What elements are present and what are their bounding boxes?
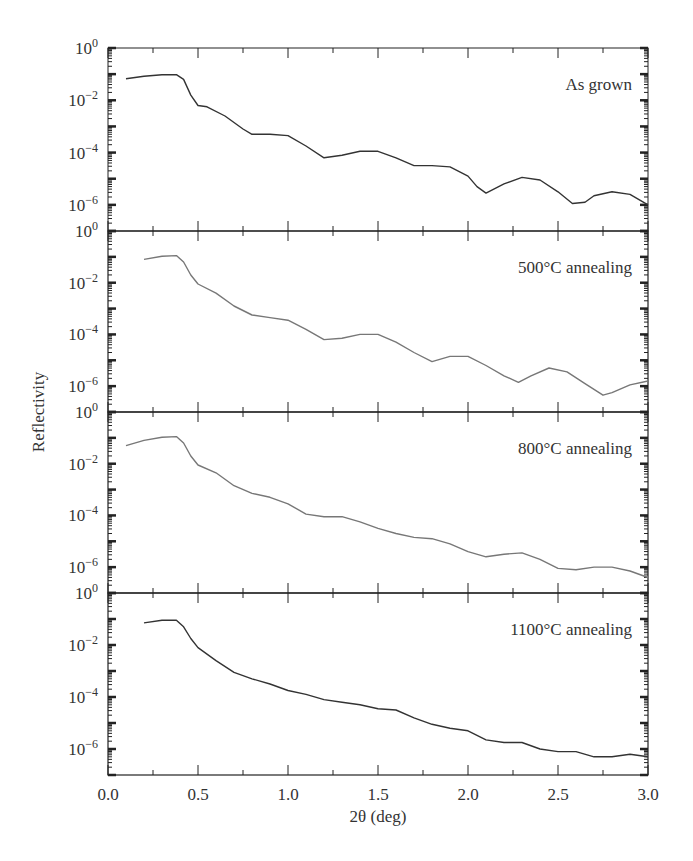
x-tick-label: 2.5: [547, 785, 568, 804]
y-tick-label: 10−6: [68, 555, 98, 577]
reflectivity-chart: 10010−210−410−6As grown10010−210−410−650…: [0, 0, 693, 861]
panel-1: 10010−210−410−6As grown: [68, 36, 648, 231]
y-tick-label: 10−6: [68, 193, 98, 215]
panel-label: As grown: [565, 75, 632, 94]
chart-panels: 10010−210−410−6As grown10010−210−410−650…: [68, 36, 648, 775]
y-tick-label: 100: [75, 36, 98, 58]
y-tick-label: 100: [75, 400, 98, 422]
panel-3: 10010−210−410−6800°C annealing: [68, 400, 648, 593]
y-tick-label: 10−4: [68, 685, 98, 707]
panel-4: 10010−210−410−61100°C annealing: [68, 581, 648, 775]
y-tick-label: 10−4: [68, 503, 98, 525]
panel-label: 800°C annealing: [518, 439, 632, 458]
x-tick-label: 3.0: [637, 785, 658, 804]
y-tick-label: 100: [75, 219, 98, 241]
y-tick-label: 10−6: [68, 737, 98, 759]
y-tick-label: 10−4: [68, 322, 98, 344]
y-tick-label: 100: [75, 581, 98, 603]
x-tick-label: 0.5: [187, 785, 208, 804]
x-tick-label: 1.0: [277, 785, 298, 804]
panel-2: 10010−210−410−6500°C annealing: [68, 219, 648, 412]
reflectivity-curve: [126, 75, 648, 205]
x-tick-label: 1.5: [367, 785, 388, 804]
y-tick-label: 10−2: [68, 452, 98, 474]
y-tick-label: 10−2: [68, 633, 98, 655]
y-tick-label: 10−2: [68, 88, 98, 110]
x-axis-tick-labels: 0.00.51.01.52.02.53.0: [97, 785, 658, 804]
y-axis-title: Reflectivity: [29, 371, 48, 452]
reflectivity-curve: [144, 620, 648, 757]
x-tick-label: 2.0: [457, 785, 478, 804]
panel-label: 500°C annealing: [518, 258, 632, 277]
x-axis-title: 2θ (deg): [350, 807, 407, 826]
x-tick-label: 0.0: [97, 785, 118, 804]
panel-label: 1100°C annealing: [510, 620, 632, 639]
y-tick-label: 10−2: [68, 271, 98, 293]
y-tick-label: 10−4: [68, 141, 98, 163]
y-tick-label: 10−6: [68, 374, 98, 396]
